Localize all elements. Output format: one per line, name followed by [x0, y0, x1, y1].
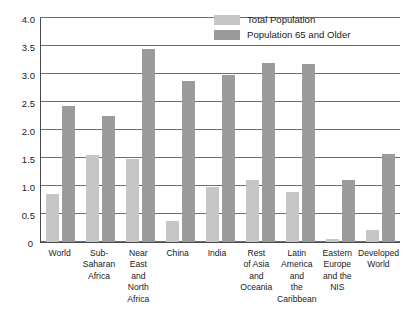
legend-label: Population 65 and Older — [247, 30, 350, 40]
legend-item: Population 65 and Older — [214, 28, 350, 41]
x-axis-tick-label: India — [197, 248, 236, 305]
bar — [182, 81, 195, 242]
y-axis-tick-label: 0.5 — [22, 210, 35, 220]
bar — [62, 106, 75, 242]
legend-item: Total Population — [214, 13, 350, 26]
bar-group — [320, 18, 360, 242]
bar — [126, 159, 139, 242]
bar — [206, 187, 219, 242]
bar — [46, 194, 59, 242]
bar — [366, 230, 379, 242]
bar-group — [360, 18, 400, 242]
x-axis-tick-label: Restof AsiaandOceania — [237, 248, 276, 305]
y-axis-tick-label: 1.0 — [22, 182, 35, 192]
bar-group — [120, 18, 160, 242]
x-axis-line — [40, 242, 400, 243]
bars-layer — [40, 18, 400, 242]
bar-group — [40, 18, 80, 242]
legend-swatch — [214, 30, 240, 40]
bar — [166, 221, 179, 242]
y-axis-tick-label: 0 — [28, 238, 33, 248]
legend-label: Total Population — [247, 15, 315, 25]
bar — [222, 75, 235, 242]
bar-group — [280, 18, 320, 242]
x-axis-tick-label: Sub-SaharanAfrica — [79, 248, 118, 305]
y-axis-tick-label: 3.5 — [22, 42, 35, 52]
x-axis-tick-label: EasternEuropeand theNIS — [318, 248, 357, 305]
bar — [262, 63, 275, 242]
chart-legend: Total PopulationPopulation 65 and Older — [214, 13, 350, 43]
bar — [342, 180, 355, 242]
x-axis-labels: WorldSub-SaharanAfricaNearEastand NorthA… — [40, 248, 400, 305]
bar — [326, 239, 339, 242]
bar — [286, 192, 299, 242]
y-axis-tick-label: 2.0 — [22, 126, 35, 136]
y-axis-tick-label: 4.0 — [22, 14, 35, 24]
bar — [246, 180, 259, 242]
bar-group — [240, 18, 280, 242]
x-axis-tick-label: NearEastand NorthAfrica — [119, 248, 158, 305]
bar-chart-figure: 00.51.01.52.02.53.03.54.0 WorldSub-Sahar… — [0, 0, 409, 326]
bar — [382, 154, 395, 242]
x-axis-tick-label: World — [40, 248, 79, 305]
y-axis-tick-label: 3.0 — [22, 70, 35, 80]
y-axis-tick-label: 1.5 — [22, 154, 35, 164]
x-axis-tick-label: China — [158, 248, 197, 305]
bar-group — [80, 18, 120, 242]
bar — [102, 116, 115, 242]
bar — [86, 155, 99, 242]
bar-group — [200, 18, 240, 242]
y-axis-tick-label: 2.5 — [22, 98, 35, 108]
bar — [142, 49, 155, 242]
bar — [302, 64, 315, 242]
x-axis-tick-label: DevelopedWorld — [357, 248, 400, 305]
bar-group — [160, 18, 200, 242]
legend-swatch — [214, 15, 240, 25]
x-axis-tick-label: LatinAmericaandtheCaribbean — [276, 248, 318, 305]
